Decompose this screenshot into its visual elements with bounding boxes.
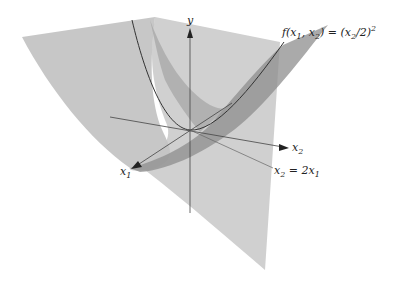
x1-axis-label: x1 [120, 165, 131, 180]
function-label: f(x1, x2) = (x2/2)2 [282, 24, 376, 41]
parabolic-sheet [22, 17, 170, 171]
surface-plot [0, 0, 406, 291]
y-axis-label: y [187, 14, 193, 27]
plane-label: x2 = 2x1 [274, 164, 320, 179]
diagram-canvas: y x2 x1 f(x1, x2) = (x2/2)2 x2 = 2x1 [0, 0, 406, 291]
x2-arrow [279, 144, 289, 151]
x2-axis-label: x2 [292, 141, 303, 156]
